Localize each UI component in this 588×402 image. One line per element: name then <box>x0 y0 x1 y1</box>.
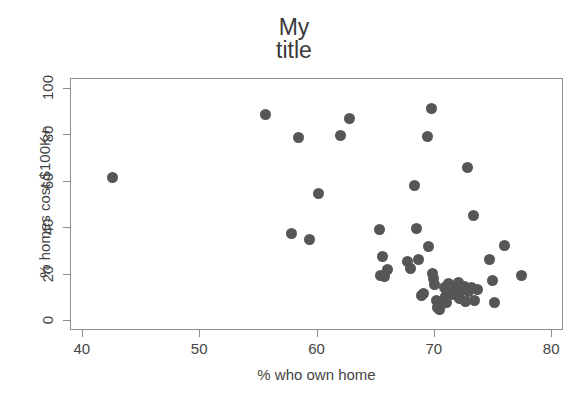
x-tick-mark <box>317 330 318 337</box>
x-tick-label: 60 <box>287 340 347 357</box>
data-point <box>260 109 271 120</box>
x-tick-mark <box>199 330 200 337</box>
data-point <box>304 234 315 245</box>
x-tick-label: 50 <box>169 340 229 357</box>
data-point <box>499 240 510 251</box>
data-point <box>487 275 498 286</box>
x-tick-label: 40 <box>52 340 112 357</box>
x-tick-label: 80 <box>521 340 581 357</box>
data-point <box>409 180 420 191</box>
data-point <box>405 263 416 274</box>
chart-title: My title <box>0 16 588 62</box>
y-tick-mark <box>63 227 70 228</box>
data-point <box>413 254 424 265</box>
data-point <box>426 103 437 114</box>
plot-frame <box>70 78 563 330</box>
y-axis-label: % homes cost $100K+ <box>36 73 53 333</box>
data-point <box>489 297 500 308</box>
data-point <box>422 131 433 142</box>
data-point <box>423 241 434 252</box>
data-point <box>382 264 393 275</box>
x-axis-label: % who own home <box>70 366 563 383</box>
data-point <box>313 188 324 199</box>
y-tick-mark <box>63 274 70 275</box>
data-point <box>286 228 297 239</box>
data-point <box>516 270 527 281</box>
data-point <box>468 210 479 221</box>
y-tick-mark <box>63 320 70 321</box>
data-point <box>484 254 495 265</box>
data-point <box>374 224 385 235</box>
data-point <box>462 162 473 173</box>
x-tick-mark <box>82 330 83 337</box>
data-point <box>335 130 346 141</box>
y-tick-mark <box>63 88 70 89</box>
data-point <box>107 172 118 183</box>
data-point <box>377 251 388 262</box>
x-tick-label: 70 <box>404 340 464 357</box>
data-point <box>416 290 427 301</box>
scatter-plot-screenshot: My title 4050607080 020406080100 % who o… <box>0 0 588 402</box>
x-tick-mark <box>434 330 435 337</box>
data-point <box>344 113 355 124</box>
x-tick-mark <box>551 330 552 337</box>
data-point <box>411 223 422 234</box>
data-point <box>472 284 483 295</box>
plot-data-area <box>71 79 562 329</box>
data-point <box>469 295 480 306</box>
y-tick-mark <box>63 134 70 135</box>
data-point <box>293 132 304 143</box>
y-tick-mark <box>63 181 70 182</box>
